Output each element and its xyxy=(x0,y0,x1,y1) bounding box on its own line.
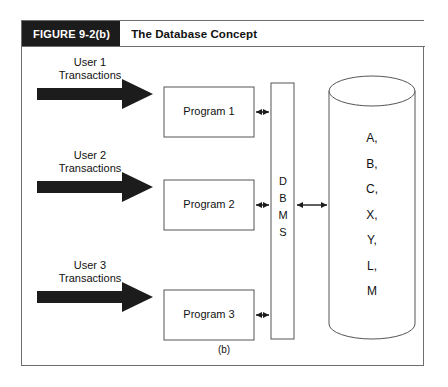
dbms-letter-s: S xyxy=(271,224,295,241)
user-label-1: User 1 Transactions xyxy=(30,56,150,82)
user-label-3: User 3 Transactions xyxy=(30,259,150,285)
dbms-letter-d: D xyxy=(271,173,295,190)
figure-number-badge: FIGURE 9-2(b) xyxy=(22,21,120,46)
database-item-c: C, xyxy=(329,177,415,203)
figure-frame: FIGURE 9-2(b) The Database Concept xyxy=(21,20,424,366)
dbms-letter-m: M xyxy=(271,207,295,224)
dbms-letter-b: B xyxy=(271,190,295,207)
database-item-b: B, xyxy=(329,152,415,178)
panel-caption: (b) xyxy=(194,344,254,355)
program-label-2: Program 2 xyxy=(164,198,254,210)
database-contents: A, B, C, X, Y, L, M xyxy=(329,126,415,305)
program-label-1: Program 1 xyxy=(164,105,254,117)
database-item-a: A, xyxy=(329,126,415,152)
user-label-2-line2: Transactions xyxy=(30,162,150,175)
diagram-canvas: User 1 Transactions User 2 Transactions … xyxy=(22,47,425,366)
figure-header: FIGURE 9-2(b) The Database Concept xyxy=(22,21,425,47)
database-item-m: M xyxy=(329,279,415,305)
program-label-3: Program 3 xyxy=(164,308,254,320)
user-label-3-line2: Transactions xyxy=(30,272,150,285)
figure-title: The Database Concept xyxy=(120,21,425,46)
user-arrow-2 xyxy=(37,172,153,202)
user-arrow-3 xyxy=(37,282,153,312)
dbms-label: D B M S xyxy=(271,173,295,241)
database-item-l: L, xyxy=(329,254,415,280)
database-item-x: X, xyxy=(329,203,415,229)
user-arrow-1 xyxy=(37,79,153,109)
database-item-y: Y, xyxy=(329,228,415,254)
user-label-1-line2: Transactions xyxy=(30,69,150,82)
user-label-2-line1: User 2 xyxy=(30,149,150,162)
user-label-3-line1: User 3 xyxy=(30,259,150,272)
user-label-1-line1: User 1 xyxy=(30,56,150,69)
user-label-2: User 2 Transactions xyxy=(30,149,150,175)
